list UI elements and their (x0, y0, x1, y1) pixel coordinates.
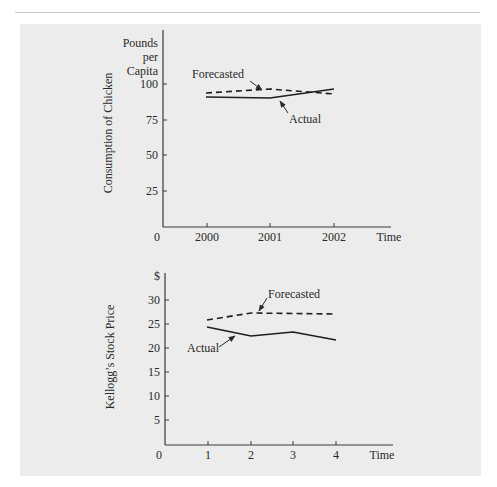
x-ticks: 0 2000 2001 2002 Time (154, 223, 401, 244)
y-tick-label: 30 (148, 293, 160, 307)
y-tick-label: 5 (154, 413, 160, 427)
x-tick-label: 3 (290, 448, 296, 462)
y-unit-label-line3: Capita (127, 64, 159, 78)
y-axis-title: Consumption of Chicken (101, 73, 115, 194)
y-unit-label-line2: per (143, 50, 158, 64)
figure: Consumption of Chicken Pounds per Capita… (0, 0, 497, 487)
x-tick-label: 2000 (195, 230, 219, 244)
chart-kelloggs-stock: Kellogg’s Stock Price $ 30 25 20 15 10 5 (103, 269, 394, 462)
y-ticks: 30 25 20 15 10 5 (148, 293, 169, 427)
y-tick-label: 100 (140, 77, 158, 91)
x-tick-label: 4 (333, 448, 339, 462)
forecast-arrow-icon (259, 298, 267, 311)
x-axis-title: Time (377, 230, 402, 244)
actual-arrow-icon (280, 101, 288, 113)
forecast-annotation: Forecasted (192, 67, 244, 81)
y-tick-label: 25 (148, 317, 160, 331)
actual-arrow-icon (219, 336, 235, 347)
series-actual (206, 89, 334, 98)
y-unit-label-line1: Pounds (123, 36, 159, 50)
x-ticks: 0 1 2 3 4 Time (156, 441, 394, 462)
forecast-annotation: Forecasted (268, 287, 320, 301)
forecast-arrow-icon (250, 81, 262, 90)
series-forecasted (207, 313, 336, 320)
x-tick-label: 2001 (258, 230, 282, 244)
actual-annotation: Actual (289, 112, 322, 126)
x-tick-label: 1 (205, 448, 211, 462)
y-tick-label: 25 (146, 184, 158, 198)
origin-label: 0 (156, 448, 162, 462)
y-unit-label: $ (154, 269, 160, 283)
y-tick-label: 20 (148, 341, 160, 355)
origin-label: 0 (154, 230, 160, 244)
y-tick-label: 75 (146, 113, 158, 127)
x-tick-label: 2 (248, 448, 254, 462)
y-tick-label: 10 (148, 389, 160, 403)
y-tick-label: 50 (146, 148, 158, 162)
x-tick-label: 2002 (322, 230, 346, 244)
series-actual (207, 327, 336, 340)
chart-chicken-consumption: Consumption of Chicken Pounds per Capita… (101, 30, 401, 244)
y-axis-title: Kellogg’s Stock Price (103, 305, 117, 410)
y-tick-label: 15 (148, 365, 160, 379)
actual-annotation: Actual (187, 341, 220, 355)
x-axis-title: Time (370, 448, 395, 462)
